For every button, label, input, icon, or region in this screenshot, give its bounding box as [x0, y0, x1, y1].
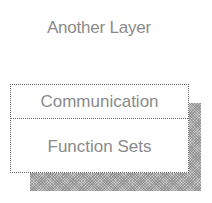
function-sets-label: Function Sets: [48, 137, 152, 157]
communication-label: Communication: [40, 92, 158, 112]
communication-section: Communication: [11, 85, 188, 119]
layer-title: Another Layer: [0, 18, 198, 38]
function-sets-section: Function Sets: [11, 119, 188, 173]
layer-box: Communication Function Sets: [10, 84, 189, 173]
